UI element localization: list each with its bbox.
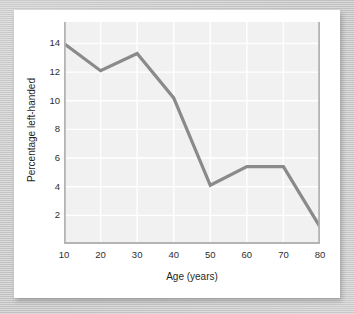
chart-card: 2468101214 1020304050607080 Age (years) … xyxy=(14,10,340,298)
y-axis-title: Percentage left-handed xyxy=(27,78,37,182)
y-tick-label: 14 xyxy=(38,39,60,49)
y-tick-label: 6 xyxy=(38,153,60,163)
figure-root: 2468101214 1020304050607080 Age (years) … xyxy=(0,0,354,314)
y-tick-label: 12 xyxy=(38,67,60,77)
x-axis-title: Age (years) xyxy=(64,272,320,282)
x-tick-label: 80 xyxy=(315,250,326,260)
data-series-line xyxy=(64,43,320,226)
line-chart-svg xyxy=(64,22,320,244)
y-tick-label: 10 xyxy=(38,96,60,106)
x-axis-tick-labels: 1020304050607080 xyxy=(64,250,320,264)
x-tick-label: 40 xyxy=(168,250,179,260)
x-tick-label: 30 xyxy=(132,250,143,260)
y-tick-label: 4 xyxy=(38,182,60,192)
x-tick-label: 70 xyxy=(278,250,289,260)
y-axis-title-wrapper: Percentage left-handed xyxy=(25,19,39,241)
x-tick-label: 60 xyxy=(242,250,253,260)
vertical-gridlines xyxy=(64,22,320,244)
x-tick-label: 20 xyxy=(95,250,106,260)
y-tick-label: 8 xyxy=(38,125,60,135)
x-tick-label: 10 xyxy=(59,250,70,260)
y-tick-label: 2 xyxy=(38,211,60,221)
plot-area xyxy=(64,22,320,244)
x-tick-label: 50 xyxy=(205,250,216,260)
